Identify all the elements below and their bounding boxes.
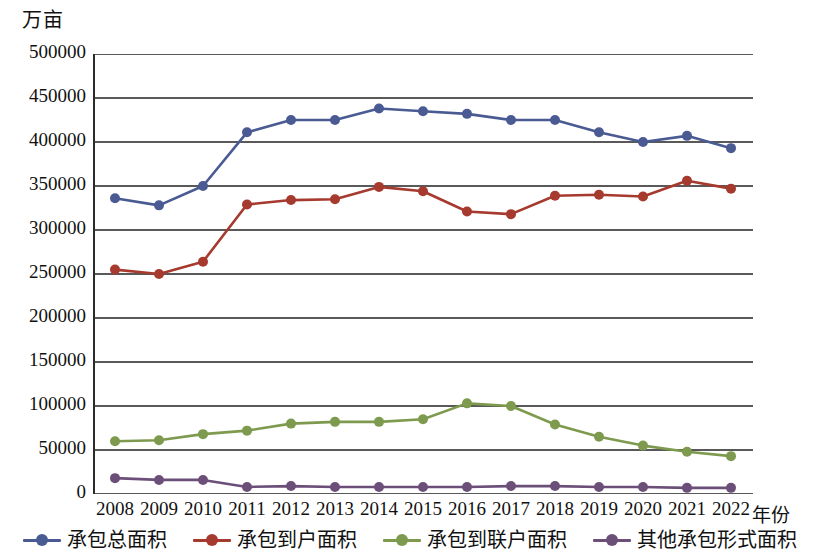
y-axis-tick-label: 450000 <box>0 85 86 107</box>
data-point <box>682 483 692 493</box>
data-point <box>242 127 252 137</box>
data-point <box>110 436 120 446</box>
x-axis-tick-label: 2008 <box>90 498 140 520</box>
data-point <box>462 207 472 217</box>
data-point <box>374 182 384 192</box>
legend-item-3[interactable]: 其他承包形式面积 <box>593 530 797 550</box>
data-point <box>286 195 296 205</box>
legend-label: 承包到联户面积 <box>427 530 567 550</box>
data-point <box>110 193 120 203</box>
data-point <box>550 481 560 491</box>
data-point <box>462 109 472 119</box>
data-point <box>374 417 384 427</box>
x-axis-tick-label: 2017 <box>486 498 536 520</box>
data-point <box>594 127 604 137</box>
data-point <box>330 482 340 492</box>
x-axis-tick-label: 2011 <box>222 498 272 520</box>
data-point <box>550 115 560 125</box>
data-point <box>198 257 208 267</box>
data-point <box>286 481 296 491</box>
x-axis-tick-label: 2021 <box>662 498 712 520</box>
data-point <box>154 435 164 445</box>
data-point <box>594 190 604 200</box>
data-point <box>198 475 208 485</box>
data-point <box>418 186 428 196</box>
y-axis-tick-label: 400000 <box>0 129 86 151</box>
y-axis-tick-label: 300000 <box>0 217 86 239</box>
legend-marker-icon <box>383 533 421 547</box>
data-point <box>506 481 516 491</box>
data-point <box>242 426 252 436</box>
legend-marker-icon <box>23 533 61 547</box>
legend-label: 承包到户面积 <box>237 530 357 550</box>
legend-item-1[interactable]: 承包到户面积 <box>193 530 357 550</box>
data-point <box>726 483 736 493</box>
data-point <box>726 451 736 461</box>
data-point <box>506 115 516 125</box>
x-axis-tick-label: 2020 <box>618 498 668 520</box>
data-point <box>682 176 692 186</box>
data-point <box>330 115 340 125</box>
x-axis-tick-label: 2013 <box>310 498 360 520</box>
legend-item-2[interactable]: 承包到联户面积 <box>383 530 567 550</box>
legend-label: 其他承包形式面积 <box>637 530 797 550</box>
x-axis-tick-label: 2010 <box>178 498 228 520</box>
y-axis-unit-label: 万亩 <box>22 4 64 33</box>
legend-item-0[interactable]: 承包总面积 <box>23 530 167 550</box>
data-point <box>198 181 208 191</box>
data-point <box>286 115 296 125</box>
y-axis-tick-label: 500000 <box>0 41 86 63</box>
data-point <box>418 482 428 492</box>
data-point <box>154 200 164 210</box>
legend-marker-icon <box>193 533 231 547</box>
x-axis-tick-label: 2014 <box>354 498 404 520</box>
data-point <box>330 417 340 427</box>
x-axis-tick-label: 2018 <box>530 498 580 520</box>
x-axis-tick-label: 2019 <box>574 498 624 520</box>
data-point <box>374 482 384 492</box>
x-axis-tick-label: 2022 <box>706 498 756 520</box>
data-point <box>242 199 252 209</box>
series-line-2 <box>115 403 731 456</box>
data-point <box>726 143 736 153</box>
x-axis-tick-label: 2012 <box>266 498 316 520</box>
data-point <box>154 475 164 485</box>
y-axis-tick-label: 200000 <box>0 305 86 327</box>
chart-legend: 承包总面积承包到户面积承包到联户面积其他承包形式面积 <box>0 530 820 550</box>
y-axis-tick-label: 250000 <box>0 261 86 283</box>
data-point <box>330 194 340 204</box>
data-point <box>154 269 164 279</box>
data-point <box>638 137 648 147</box>
line-chart: 万亩 5000004500004000003500003000002500002… <box>0 0 820 558</box>
data-point <box>726 184 736 194</box>
x-axis-tick-label: 2009 <box>134 498 184 520</box>
data-point <box>550 191 560 201</box>
data-point <box>110 473 120 483</box>
plot-svg <box>93 54 753 494</box>
data-point <box>462 482 472 492</box>
data-point <box>550 419 560 429</box>
y-axis-tick-label: 100000 <box>0 393 86 415</box>
data-point <box>638 482 648 492</box>
data-point <box>374 104 384 114</box>
data-point <box>418 106 428 116</box>
data-point <box>462 398 472 408</box>
data-point <box>682 447 692 457</box>
y-axis-tick-label: 350000 <box>0 173 86 195</box>
data-point <box>506 401 516 411</box>
data-point <box>198 429 208 439</box>
data-point <box>682 131 692 141</box>
legend-marker-icon <box>593 533 631 547</box>
data-point <box>110 265 120 275</box>
data-point <box>594 482 604 492</box>
y-axis-tick-label: 0 <box>0 481 86 503</box>
data-point <box>506 209 516 219</box>
data-point <box>638 441 648 451</box>
data-point <box>242 482 252 492</box>
plot-area <box>93 54 753 494</box>
y-axis-tick-label: 50000 <box>0 437 86 459</box>
y-axis-tick-label: 150000 <box>0 349 86 371</box>
data-point <box>418 414 428 424</box>
legend-label: 承包总面积 <box>67 530 167 550</box>
data-point <box>638 192 648 202</box>
